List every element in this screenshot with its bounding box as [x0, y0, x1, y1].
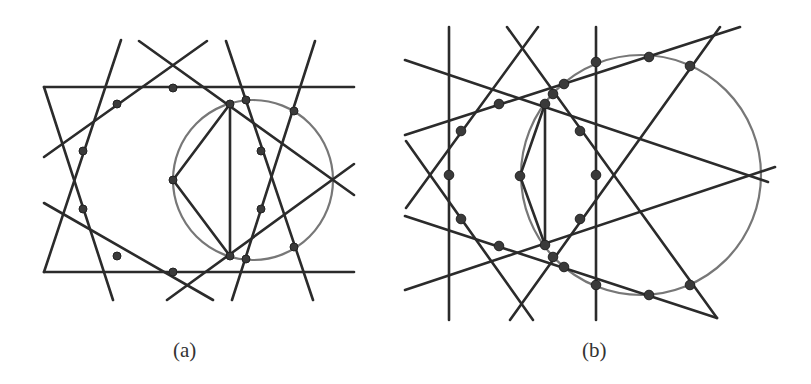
point-marker — [540, 99, 550, 109]
point-marker — [515, 171, 525, 181]
point-marker — [685, 280, 695, 290]
point-marker — [540, 240, 550, 250]
line-segment — [406, 141, 533, 320]
line-segment — [507, 27, 717, 318]
point-marker — [644, 290, 654, 300]
point-marker — [494, 241, 504, 251]
point-marker — [591, 57, 601, 67]
point-marker — [456, 126, 466, 136]
point-marker — [444, 170, 454, 180]
line-segment — [405, 167, 775, 290]
point-marker — [548, 89, 558, 99]
line-segment — [520, 176, 545, 245]
point-marker — [591, 170, 601, 180]
caption-b: (b) — [582, 338, 607, 363]
figure-panel-b — [0, 0, 811, 330]
point-marker — [575, 126, 585, 136]
diagram-b — [0, 0, 811, 330]
point-marker — [559, 79, 569, 89]
caption-a: (a) — [173, 338, 196, 363]
point-marker — [456, 214, 466, 224]
point-marker — [644, 52, 654, 62]
point-marker — [559, 262, 569, 272]
point-marker — [591, 280, 601, 290]
line-segment — [520, 104, 545, 176]
point-marker — [685, 61, 695, 71]
point-marker — [575, 214, 585, 224]
point-marker — [548, 252, 558, 262]
point-marker — [494, 99, 504, 109]
